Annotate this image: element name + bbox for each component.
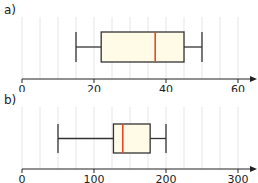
x-tick-label: 200 — [156, 173, 177, 183]
iqr-box — [113, 124, 150, 153]
axis-arrow-icon — [250, 76, 257, 82]
axis-arrow-icon — [250, 166, 257, 172]
boxplot-b: b) 0100200300 — [0, 90, 258, 183]
iqr-box — [101, 32, 184, 62]
boxplot-a-svg: 0204060 — [0, 0, 258, 92]
boxplot-b-svg: 0100200300 — [0, 90, 258, 183]
x-tick-label: 300 — [228, 173, 249, 183]
boxplot-a: a) 0204060 — [0, 0, 258, 92]
x-tick-label: 0 — [19, 173, 26, 183]
x-tick-label: 100 — [84, 173, 105, 183]
